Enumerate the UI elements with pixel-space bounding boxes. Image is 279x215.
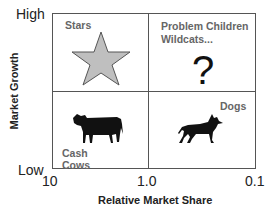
x-axis-title: Relative Market Share xyxy=(98,194,212,206)
star-icon xyxy=(70,30,132,86)
y-axis-title: Market Growth xyxy=(8,52,20,129)
y-axis-high-label: High xyxy=(16,6,45,22)
y-axis-low-label: Low xyxy=(18,162,44,178)
problem-children-label: Problem Children xyxy=(161,20,249,33)
cows-label: Cows xyxy=(62,159,90,172)
cow-icon xyxy=(71,112,125,148)
x-tick-1: 1.0 xyxy=(137,173,156,189)
dog-icon xyxy=(176,112,226,148)
x-tick-10: 10 xyxy=(42,173,58,189)
question-mark-icon: ? xyxy=(192,50,214,90)
horizontal-divider xyxy=(52,91,256,92)
wildcats-label: Wildcats... xyxy=(161,33,213,46)
x-tick-0-1: 0.1 xyxy=(245,173,264,189)
